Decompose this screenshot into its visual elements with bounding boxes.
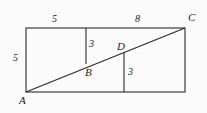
- geometry-figure: 5 8 5 3 3 A B C D: [0, 0, 207, 113]
- vertex-label-a: A: [19, 95, 26, 106]
- length-label-left-side: 5: [13, 53, 18, 63]
- length-label-lower-segment: 3: [128, 67, 133, 77]
- figure-canvas: [0, 0, 207, 113]
- vertex-label-d: D: [117, 41, 125, 52]
- vertex-label-c: C: [188, 12, 195, 23]
- figure-background: [0, 0, 207, 113]
- vertex-label-b: B: [85, 67, 92, 78]
- length-label-upper-segment: 3: [89, 39, 94, 49]
- length-label-top-left: 5: [52, 14, 57, 24]
- length-label-top-right: 8: [135, 14, 140, 24]
